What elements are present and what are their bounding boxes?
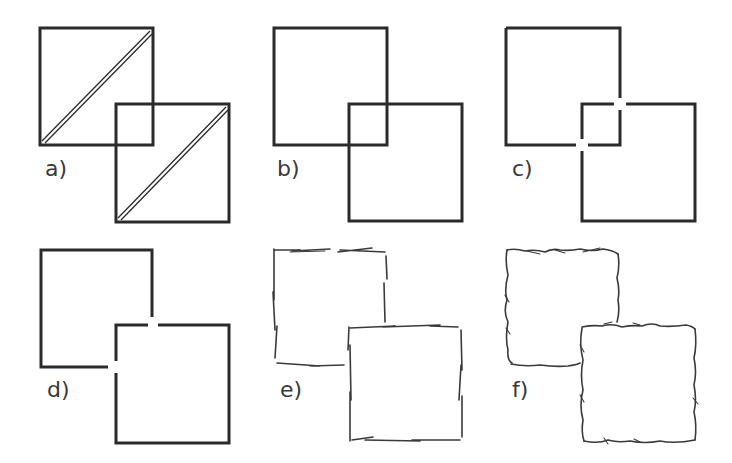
front-square bbox=[349, 104, 462, 221]
back-square bbox=[40, 28, 153, 145]
panel-e: e) bbox=[273, 248, 462, 441]
panel-b: b) bbox=[274, 28, 462, 221]
back-square bbox=[273, 248, 387, 366]
back-square bbox=[41, 250, 152, 367]
back-square bbox=[506, 28, 620, 145]
overlapping-squares-figure: a) b) c) d) bbox=[0, 0, 732, 463]
front-square bbox=[116, 104, 229, 222]
panel-label-b: b) bbox=[277, 156, 300, 181]
front-square bbox=[116, 325, 229, 443]
panel-c: c) bbox=[506, 28, 695, 221]
panel-label-d: d) bbox=[47, 377, 70, 402]
panel-d: d) bbox=[41, 250, 229, 443]
back-square bbox=[274, 28, 387, 145]
panel-a: a) bbox=[40, 28, 229, 222]
back-square bbox=[505, 248, 619, 366]
panel-label-f: f) bbox=[512, 377, 528, 402]
panel-label-a: a) bbox=[45, 156, 67, 181]
panel-f: f) bbox=[505, 248, 698, 444]
front-square bbox=[582, 104, 695, 221]
front-square bbox=[348, 325, 462, 441]
panel-label-c: c) bbox=[512, 156, 533, 181]
front-square bbox=[580, 322, 698, 444]
panel-label-e: e) bbox=[280, 377, 302, 402]
